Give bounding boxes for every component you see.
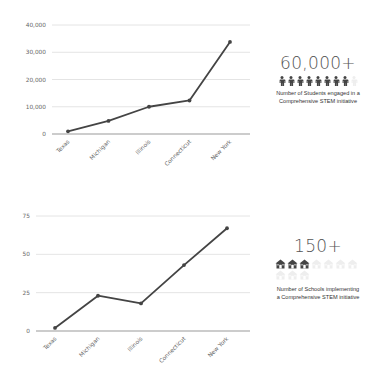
data-point bbox=[66, 129, 70, 133]
school-icon bbox=[323, 259, 334, 269]
x-tick-label: Texas bbox=[41, 335, 57, 351]
person-icon bbox=[350, 76, 358, 86]
x-tick-label: Illinois bbox=[134, 138, 151, 155]
school-icon bbox=[299, 259, 310, 269]
school-icon bbox=[299, 270, 310, 280]
person-icon bbox=[341, 76, 349, 86]
person-icon bbox=[287, 76, 295, 86]
x-tick-label: Michigan bbox=[89, 138, 113, 162]
y-tick-label: 50 bbox=[23, 251, 31, 257]
schools-chart-svg: 0255075TexasMichiganIllinoisConnecticutN… bbox=[0, 195, 250, 387]
person-icon bbox=[278, 76, 286, 86]
school-icon bbox=[335, 259, 346, 269]
schools-stat: 150+ Number of Schools implementing a Co… bbox=[262, 236, 374, 301]
schools-stat-caption: Number of Schools implementing a Compreh… bbox=[262, 286, 374, 301]
x-tick-label: Illinois bbox=[126, 335, 143, 352]
x-tick-label: Connecticut bbox=[158, 335, 187, 364]
person-icon bbox=[332, 76, 340, 86]
school-icon bbox=[275, 259, 286, 269]
y-tick-label: 0 bbox=[26, 328, 30, 334]
data-point bbox=[139, 302, 143, 306]
person-icon bbox=[296, 76, 304, 86]
y-tick-label: 20,000 bbox=[26, 77, 47, 83]
x-tick-label: Connecticut bbox=[163, 138, 192, 167]
students-chart-svg: 010,00020,00030,00040,000TexasMichiganIl… bbox=[0, 0, 250, 190]
school-icon bbox=[311, 259, 322, 269]
school-icon bbox=[287, 259, 298, 269]
schools-icon-row bbox=[275, 259, 361, 280]
y-tick-label: 10,000 bbox=[26, 104, 47, 110]
x-tick-label: New York bbox=[210, 138, 233, 161]
person-icon bbox=[323, 76, 331, 86]
data-point bbox=[96, 294, 100, 298]
data-point bbox=[188, 99, 192, 103]
students-stat-number: 60,000+ bbox=[262, 53, 374, 73]
students-stat-caption: Number of Students engaged in a Comprehe… bbox=[262, 90, 374, 105]
school-icon bbox=[347, 259, 358, 269]
schools-stat-number: 150+ bbox=[262, 236, 374, 256]
students-line-chart: 010,00020,00030,00040,000TexasMichiganIl… bbox=[0, 0, 250, 190]
person-icon bbox=[314, 76, 322, 86]
person-icon bbox=[305, 76, 313, 86]
x-tick-label: Michigan bbox=[78, 335, 102, 359]
data-point bbox=[107, 119, 111, 123]
x-tick-label: Texas bbox=[54, 138, 70, 154]
school-icon bbox=[287, 270, 298, 280]
data-point bbox=[147, 105, 151, 109]
x-tick-label: New York bbox=[207, 335, 230, 358]
students-stat: 60,000+ Number of Students engaged in a … bbox=[262, 53, 374, 105]
y-tick-label: 0 bbox=[42, 131, 46, 137]
data-point bbox=[225, 226, 229, 230]
students-icon-row bbox=[277, 76, 359, 86]
data-point bbox=[182, 263, 186, 267]
y-tick-label: 25 bbox=[23, 290, 31, 296]
y-tick-label: 40,000 bbox=[26, 22, 47, 28]
data-point bbox=[53, 326, 57, 330]
y-tick-label: 30,000 bbox=[26, 49, 47, 55]
data-line bbox=[68, 42, 230, 131]
data-line bbox=[55, 228, 227, 328]
data-point bbox=[228, 40, 232, 44]
schools-line-chart: 0255075TexasMichiganIllinoisConnecticutN… bbox=[0, 195, 250, 387]
school-icon bbox=[275, 270, 286, 280]
y-tick-label: 75 bbox=[23, 213, 31, 219]
